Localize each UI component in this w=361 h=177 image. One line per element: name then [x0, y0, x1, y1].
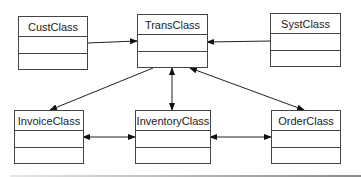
class-operations [19, 54, 87, 69]
class-box-trans[interactable]: TransClass [137, 14, 208, 68]
class-box-inventory[interactable]: InventoryClass [135, 110, 211, 164]
class-box-order[interactable]: OrderClass [271, 110, 341, 164]
class-attributes [15, 131, 83, 148]
class-name: InventoryClass [136, 111, 210, 131]
class-attributes [271, 34, 340, 51]
class-operations [272, 148, 340, 163]
class-name: TransClass [138, 15, 207, 35]
class-name: CustClass [19, 17, 87, 37]
arrow-trans-order [190, 68, 304, 110]
class-name: SystClass [271, 14, 340, 34]
class-box-cust[interactable]: CustClass [18, 16, 88, 70]
class-name: OrderClass [272, 111, 340, 131]
class-operations [271, 51, 340, 66]
class-attributes [272, 131, 340, 148]
class-box-invoice[interactable]: InvoiceClass [14, 110, 84, 164]
class-attributes [19, 37, 87, 54]
class-operations [136, 148, 210, 163]
class-box-syst[interactable]: SystClass [270, 13, 341, 67]
class-attributes [136, 131, 210, 148]
class-operations [138, 52, 207, 67]
arrow-syst-to-trans [207, 41, 270, 42]
class-attributes [138, 35, 207, 52]
bottom-rule [10, 175, 361, 177]
class-name: InvoiceClass [15, 111, 83, 131]
arrow-cust-to-trans [87, 41, 137, 43]
arrow-trans-to-invoice [50, 68, 153, 110]
class-operations [15, 148, 83, 163]
